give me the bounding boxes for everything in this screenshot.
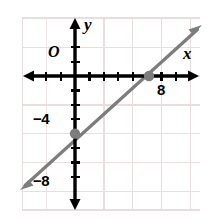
point-y-intercept xyxy=(70,128,80,138)
y-axis xyxy=(70,18,81,210)
x-tick-label-8: 8 xyxy=(157,82,165,97)
x-axis-label: x xyxy=(183,45,192,62)
y-tick-label-neg8: −8 xyxy=(33,173,49,188)
x-axis xyxy=(23,71,199,82)
point-x-intercept xyxy=(144,71,154,81)
graph-screenshot: y x O −4 −8 8 xyxy=(0,0,214,223)
y-tick-label-neg4: −4 xyxy=(33,111,49,126)
origin-label: O xyxy=(48,44,60,60)
y-axis-label: y xyxy=(84,16,92,33)
